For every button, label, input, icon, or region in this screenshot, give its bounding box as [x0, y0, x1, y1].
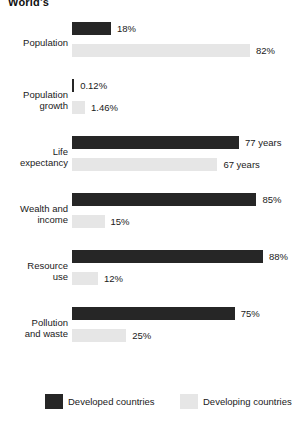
- bar-row-developed: 88%: [72, 250, 304, 263]
- bar-group-label-line2: income: [0, 214, 68, 226]
- bar-group-label: Populationgrowth: [0, 88, 68, 111]
- bar-value-developing: 25%: [132, 330, 151, 341]
- bar-group-label: Population: [0, 37, 68, 49]
- bar-value-developed: 75%: [241, 308, 260, 319]
- bar-developing: [72, 329, 126, 342]
- bar-group: Populationgrowth0.12%1.46%: [0, 71, 304, 128]
- bar-row-developing: 82%: [72, 44, 304, 57]
- bar-group-label-line1: Pollution: [0, 316, 68, 328]
- bar-group-bars: 88%12%: [72, 250, 304, 294]
- bar-group-label: Lifeexpectancy: [0, 145, 68, 168]
- bar-row-developed: 77 years: [72, 136, 304, 149]
- bar-value-developing: 12%: [104, 273, 123, 284]
- bar-developed: [72, 22, 111, 35]
- bar-developed: [72, 79, 74, 92]
- bar-group-label-line1: Population: [0, 37, 68, 49]
- bar-developing: [72, 215, 105, 228]
- bar-group-label-line2: and waste: [0, 328, 68, 340]
- bar-group: Lifeexpectancy77 years67 years: [0, 128, 304, 185]
- bar-group-bars: 0.12%1.46%: [72, 79, 304, 123]
- bar-value-developed: 88%: [269, 251, 288, 262]
- bar-developed: [72, 193, 256, 206]
- bar-developed: [72, 250, 263, 263]
- chart-legend: Developed countries Developing countries: [0, 394, 304, 414]
- bar-group-label-line2: growth: [0, 100, 68, 112]
- bar-group: Population18%82%: [0, 14, 304, 71]
- bar-row-developing: 15%: [72, 215, 304, 228]
- bar-row-developed: 0.12%: [72, 79, 304, 92]
- bar-group-label: Wealth andincome: [0, 202, 68, 225]
- bar-developing: [72, 158, 217, 171]
- bar-value-developed: 18%: [117, 23, 136, 34]
- bar-row-developing: 67 years: [72, 158, 304, 171]
- bar-value-developing: 15%: [111, 216, 130, 227]
- bar-group: Resourceuse88%12%: [0, 242, 304, 299]
- bar-value-developing: 82%: [256, 45, 275, 56]
- bar-developing: [72, 101, 85, 114]
- bar-group-bars: 77 years67 years: [72, 136, 304, 180]
- legend-swatch-developed-icon: [45, 394, 63, 409]
- bar-value-developed: 0.12%: [80, 80, 107, 91]
- legend-label-developed: Developed countries: [68, 396, 155, 407]
- bar-chart-groups: Population18%82%Populationgrowth0.12%1.4…: [0, 14, 304, 356]
- bar-row-developed: 85%: [72, 193, 304, 206]
- bar-developing: [72, 272, 98, 285]
- bar-row-developed: 75%: [72, 307, 304, 320]
- bar-group-label-line2: use: [0, 271, 68, 283]
- bar-group: Pollutionand waste75%25%: [0, 299, 304, 356]
- bar-developed: [72, 307, 235, 320]
- bar-group-label-line1: Life: [0, 145, 68, 157]
- bar-group-label-line1: Wealth and: [0, 202, 68, 214]
- bar-group: Wealth andincome85%15%: [0, 185, 304, 242]
- legend-item-developing: Developing countries: [180, 394, 292, 409]
- bar-row-developing: 1.46%: [72, 101, 304, 114]
- bar-row-developing: 12%: [72, 272, 304, 285]
- legend-item-developed: Developed countries: [45, 394, 155, 409]
- bar-group-label-line1: Population: [0, 88, 68, 100]
- bar-value-developing: 67 years: [223, 159, 259, 170]
- bar-group-bars: 75%25%: [72, 307, 304, 351]
- legend-swatch-developing-icon: [180, 394, 198, 409]
- bar-value-developed: 77 years: [245, 137, 281, 148]
- bar-value-developed: 85%: [262, 194, 281, 205]
- bar-developed: [72, 136, 239, 149]
- bar-group-label-line2: expectancy: [0, 157, 68, 169]
- bar-group-label: Resourceuse: [0, 259, 68, 282]
- bar-group-bars: 85%15%: [72, 193, 304, 237]
- bar-row-developing: 25%: [72, 329, 304, 342]
- bar-row-developed: 18%: [72, 22, 304, 35]
- legend-label-developing: Developing countries: [203, 396, 292, 407]
- page-title: World's: [8, 0, 49, 8]
- bar-value-developing: 1.46%: [91, 102, 118, 113]
- bar-group-bars: 18%82%: [72, 22, 304, 66]
- bar-group-label-line1: Resource: [0, 259, 68, 271]
- bar-group-label: Pollutionand waste: [0, 316, 68, 339]
- bar-developing: [72, 44, 250, 57]
